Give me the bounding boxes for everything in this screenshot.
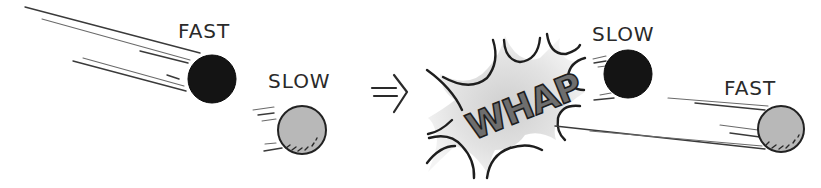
speed-label-slow-before: SLOW — [268, 69, 331, 93]
impact-burst: WHAP — [427, 34, 587, 178]
implies-arrow-icon — [372, 75, 407, 112]
gray-ball-after-icon — [758, 106, 804, 152]
after-scene: SLOW FAST — [555, 22, 804, 152]
fast-motion-lines-icon — [25, 7, 200, 91]
black-ball-icon — [188, 55, 236, 103]
fast-motion-lines-after-icon — [555, 98, 768, 149]
gray-ball-icon — [278, 106, 326, 154]
before-scene: FAST SLOW — [25, 7, 331, 154]
speed-label-fast-after: FAST — [724, 76, 776, 100]
black-ball-after-icon — [604, 50, 652, 98]
speed-label-fast-before: FAST — [178, 19, 230, 43]
speed-label-slow-after: SLOW — [592, 22, 655, 46]
collision-illustration: FAST SLOW — [0, 0, 821, 188]
